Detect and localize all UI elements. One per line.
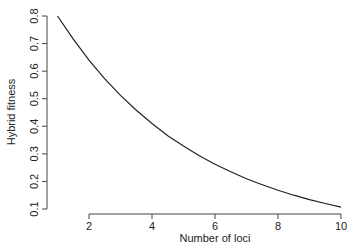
x-tick-label: 10	[335, 220, 347, 232]
y-axis: 0.10.20.30.40.50.60.70.8	[28, 8, 47, 216]
y-tick-label: 0.2	[28, 174, 40, 189]
x-axis: 246810	[86, 214, 347, 232]
y-tick-label: 0.6	[28, 63, 40, 78]
y-tick-label: 0.4	[28, 119, 40, 134]
y-tick-label: 0.5	[28, 91, 40, 106]
y-axis-title: Hybrid fitness	[5, 78, 17, 145]
y-tick-label: 0.7	[28, 36, 40, 51]
x-tick-label: 8	[275, 220, 281, 232]
y-tick-label: 0.1	[28, 201, 40, 216]
chart: 0.10.20.30.40.50.60.70.8 246810 Number o…	[0, 0, 360, 252]
x-tick-label: 6	[212, 220, 218, 232]
x-axis-title: Number of loci	[180, 232, 251, 244]
x-tick-label: 4	[149, 220, 155, 232]
y-tick-label: 0.3	[28, 146, 40, 161]
data-line	[58, 16, 342, 207]
y-tick-label: 0.8	[28, 8, 40, 23]
x-tick-label: 2	[86, 220, 92, 232]
